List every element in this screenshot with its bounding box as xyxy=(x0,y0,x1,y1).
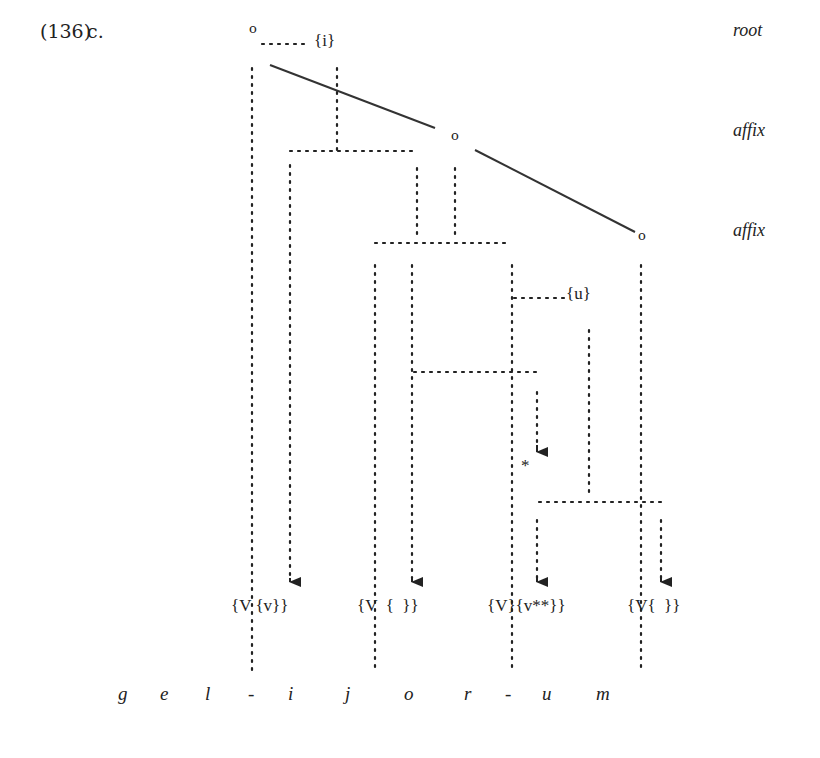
association-lines xyxy=(270,65,635,232)
segment-g: g xyxy=(118,683,128,705)
affix-node-1: o xyxy=(451,128,459,143)
affix-node-2: o xyxy=(638,228,646,243)
feature-i: {i} xyxy=(314,31,335,51)
segment-l: l xyxy=(205,683,210,705)
segment-j: j xyxy=(345,683,350,705)
feature-bundle-3: {V}{v**}} xyxy=(487,596,566,616)
segment-i: i xyxy=(288,683,293,705)
asterisk-mark: * xyxy=(521,456,530,476)
segment-hyphen-2: - xyxy=(505,683,511,705)
root-node: o xyxy=(249,21,257,36)
feature-u: {u} xyxy=(566,284,591,304)
diagram-lines xyxy=(0,0,820,758)
segment-m: m xyxy=(596,683,610,705)
segment-u: u xyxy=(542,683,552,705)
feature-bundle-1: {V {v}} xyxy=(231,596,288,616)
segment-e: e xyxy=(160,683,168,705)
segment-hyphen-1: - xyxy=(248,683,254,705)
segment-r: r xyxy=(464,683,471,705)
feature-bundle-4: {V{ }} xyxy=(627,596,680,616)
segment-o: o xyxy=(404,683,414,705)
arrows xyxy=(290,445,661,582)
feature-bundle-2: {V { }} xyxy=(357,596,419,616)
